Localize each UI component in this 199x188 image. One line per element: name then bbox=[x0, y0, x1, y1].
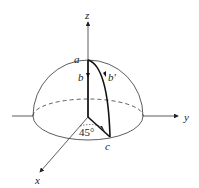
point-a-label: a bbox=[74, 54, 80, 65]
y-axis-label: y bbox=[184, 112, 189, 123]
b-arrow bbox=[86, 73, 90, 78]
diagram-drawing bbox=[0, 0, 199, 188]
point-c-label: c bbox=[105, 141, 110, 152]
point-b-label: b bbox=[78, 72, 84, 83]
angle-label: 45° bbox=[79, 127, 94, 138]
z-axis-label: z bbox=[85, 10, 89, 21]
b-prime-arrow bbox=[103, 71, 106, 77]
hemisphere-diagram: z y x a b b′ c 45° bbox=[0, 0, 199, 188]
x-axis-label: x bbox=[35, 175, 40, 186]
point-b-prime-label: b′ bbox=[108, 72, 116, 83]
